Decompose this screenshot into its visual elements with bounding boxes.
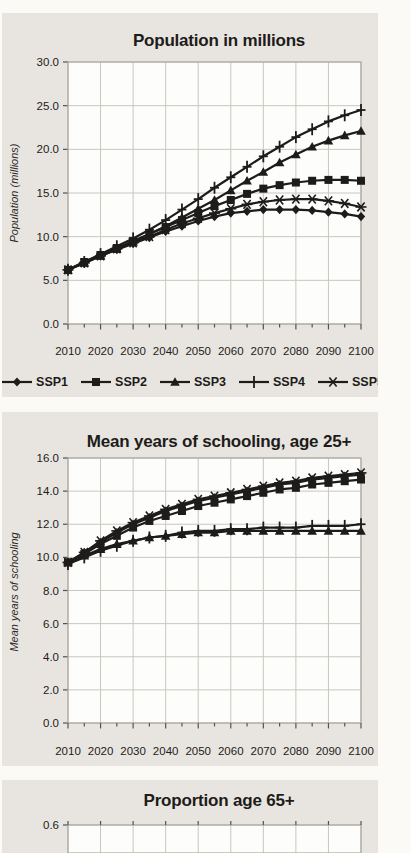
svg-text:0.6: 0.6 [43,819,59,831]
svg-text:8.0: 8.0 [43,585,59,597]
diamond-marker-icon [2,374,32,390]
svg-text:2050: 2050 [185,745,211,757]
svg-text:2090: 2090 [316,345,342,357]
svg-text:0.0: 0.0 [43,717,59,729]
svg-text:25.0: 25.0 [37,100,59,112]
legend-item-ssp4: SSP4 [239,374,305,390]
svg-text:16.0: 16.0 [37,452,59,464]
svg-text:2040: 2040 [153,345,179,357]
svg-text:2020: 2020 [88,345,114,357]
svg-text:2020: 2020 [88,745,114,757]
svg-text:20.0: 20.0 [37,143,59,155]
legend-label: SSP2 [115,375,147,389]
svg-text:12.0: 12.0 [37,518,59,530]
svg-text:4.0: 4.0 [43,651,59,663]
svg-text:2080: 2080 [283,345,309,357]
svg-text:5.0: 5.0 [43,274,59,286]
svg-text:2050: 2050 [185,345,211,357]
svg-text:2030: 2030 [120,345,146,357]
svg-text:2010: 2010 [55,745,81,757]
svg-text:10.0: 10.0 [37,551,59,563]
legend-item-ssp1: SSP1 [2,374,68,390]
legend-item-ssp3: SSP3 [160,374,226,390]
ssp-legend: SSP1SSP2SSP3SSP4SSP5 [10,369,376,395]
svg-text:2060: 2060 [218,345,244,357]
svg-text:2070: 2070 [251,345,277,357]
svg-text:30.0: 30.0 [37,56,59,68]
legend-label: SSP4 [273,375,305,389]
svg-text:0.0: 0.0 [43,318,59,330]
scanned-book-page: Population in millions Mean years of sch… [0,0,411,853]
page-edge-table-fragments: PSSSSSPSSSSSPSSSSSSPSSSSSPSSS [378,0,411,853]
svg-text:10.0: 10.0 [37,231,59,243]
svg-text:6.0: 6.0 [43,618,59,630]
svg-text:15.0: 15.0 [37,187,59,199]
legend-label: SSP1 [36,375,68,389]
svg-text:2090: 2090 [316,745,342,757]
svg-text:2080: 2080 [283,745,309,757]
legend-item-ssp2: SSP2 [81,374,147,390]
svg-text:2030: 2030 [120,745,146,757]
plus-marker-icon [239,374,269,390]
svg-text:2100: 2100 [348,745,374,757]
legend-item-ssp5: SSP5 [318,374,384,390]
svg-text:2100: 2100 [348,345,374,357]
legend-label: SSP3 [194,375,226,389]
asterisk-marker-icon [318,374,348,390]
svg-text:2.0: 2.0 [43,684,59,696]
svg-text:2040: 2040 [153,745,179,757]
square-marker-icon [81,374,111,390]
charts-canvas: 30.025.020.015.010.05.00.020102020203020… [0,0,411,853]
svg-text:2010: 2010 [55,345,81,357]
svg-text:2060: 2060 [218,745,244,757]
svg-text:14.0: 14.0 [37,485,59,497]
triangle-marker-icon [160,374,190,390]
svg-text:2070: 2070 [251,745,277,757]
